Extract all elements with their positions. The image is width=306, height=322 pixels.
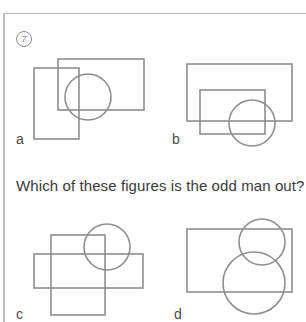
rectangle-shape xyxy=(34,68,79,139)
figure-d-label: d xyxy=(174,307,182,321)
rectangle-shape xyxy=(58,59,144,110)
question-text: Which of these figures is the odd man ou… xyxy=(16,177,305,194)
circle-shape xyxy=(223,252,285,314)
figure-b xyxy=(187,64,292,146)
figure-c xyxy=(34,224,143,315)
circle-shape xyxy=(229,100,275,146)
circle-shape xyxy=(65,74,111,120)
figure-c-label: c xyxy=(16,307,23,321)
rectangle-shape xyxy=(187,64,292,121)
circle-shape xyxy=(84,224,130,270)
puzzle-page: 7 a b Which of these figures is the odd … xyxy=(0,0,306,322)
figure-a xyxy=(34,59,144,139)
rectangle-shape xyxy=(51,235,105,315)
figure-a-label: a xyxy=(16,132,24,146)
figures-canvas xyxy=(0,0,306,322)
figure-b-label: b xyxy=(172,132,180,146)
figure-d xyxy=(187,219,292,314)
circle-shape xyxy=(239,219,285,265)
